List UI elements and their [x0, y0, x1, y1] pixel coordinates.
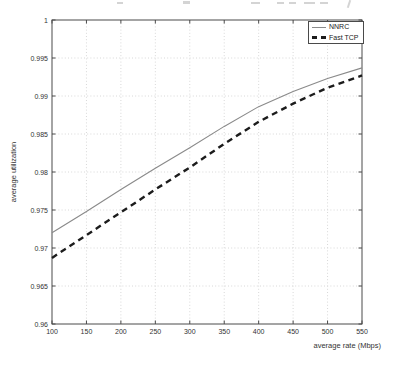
legend-label-nnrc: NNRC	[329, 23, 349, 31]
x-axis-label: average rate (Mbps)	[313, 341, 381, 350]
y-tick-label: 0.985	[0, 130, 48, 139]
y-tick-label: 0.99	[0, 92, 48, 101]
x-tick-label: 450	[280, 327, 306, 336]
plot-canvas	[0, 0, 395, 372]
x-tick-label: 150	[73, 327, 99, 336]
x-tick-label: 350	[211, 327, 237, 336]
x-tick-label: 400	[246, 327, 272, 336]
y-tick-label: 1	[0, 16, 48, 25]
legend-item-nnrc: NNRC	[312, 23, 360, 32]
chart-figure: 0.960.9650.970.9750.980.9850.990.9951100…	[0, 0, 395, 372]
x-tick-label: 550	[349, 327, 375, 336]
y-axis-label: average utilization	[9, 125, 19, 219]
series-line-nnrc	[52, 68, 362, 233]
x-tick-label: 250	[142, 327, 168, 336]
axes-frame	[52, 20, 362, 324]
x-tick-label: 200	[108, 327, 134, 336]
x-tick-label: 100	[39, 327, 65, 336]
legend: NNRC Fast TCP	[308, 21, 364, 44]
legend-item-fast-tcp: Fast TCP	[312, 34, 360, 43]
x-tick-label: 300	[177, 327, 203, 336]
y-tick-label: 0.965	[0, 282, 48, 291]
y-tick-label: 0.975	[0, 206, 48, 215]
nnrc-solid-line-swatch	[312, 27, 326, 28]
y-tick-label: 0.98	[0, 168, 48, 177]
fast-tcp-dashed-line-swatch	[312, 36, 326, 39]
series-line-fast-tcp	[52, 75, 362, 257]
legend-label-fast-tcp: Fast TCP	[329, 34, 358, 42]
y-tick-label: 0.97	[0, 244, 48, 253]
x-tick-label: 500	[315, 327, 341, 336]
y-tick-label: 0.995	[0, 54, 48, 63]
